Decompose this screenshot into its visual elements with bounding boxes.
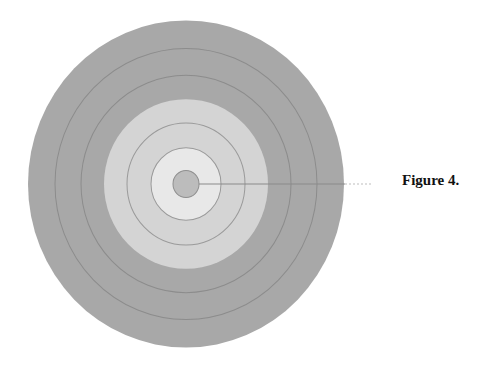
figure-caption: Figure 4. xyxy=(402,172,459,189)
center-disc xyxy=(173,171,199,198)
